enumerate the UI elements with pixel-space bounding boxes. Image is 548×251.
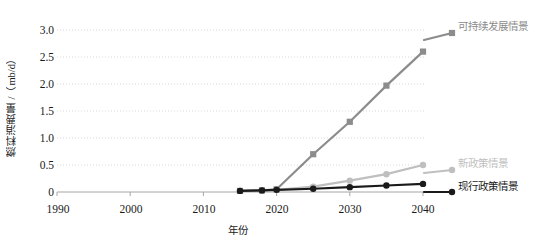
data-point — [237, 188, 243, 194]
data-point — [310, 186, 316, 192]
legend-swatch-line-1 — [424, 170, 452, 173]
legend-swatch-line-0 — [424, 33, 452, 40]
series-group — [237, 49, 426, 195]
legend-swatch-marker-0 — [449, 30, 455, 36]
data-point — [420, 49, 426, 55]
data-point — [420, 181, 426, 187]
chart-container: 燃料消费量 /（mb/d） 3.0 2.5 2.0 1.5 1.0 0.5 0 … — [0, 0, 548, 251]
data-point — [310, 151, 316, 157]
legend-swatch-marker-1 — [449, 167, 455, 173]
legend-marks-group — [424, 30, 455, 195]
data-point — [347, 184, 353, 190]
data-point — [383, 182, 389, 188]
data-point — [420, 162, 426, 168]
data-point — [347, 177, 353, 183]
series-line — [240, 184, 423, 191]
series-line — [240, 52, 423, 191]
data-point — [273, 187, 279, 193]
gridlines-group — [57, 30, 425, 165]
data-point — [383, 171, 389, 177]
data-point — [347, 119, 353, 125]
data-point — [259, 187, 265, 193]
legend-swatch-marker-2 — [449, 189, 455, 195]
data-point — [383, 83, 389, 89]
chart-plot-area — [0, 0, 548, 251]
